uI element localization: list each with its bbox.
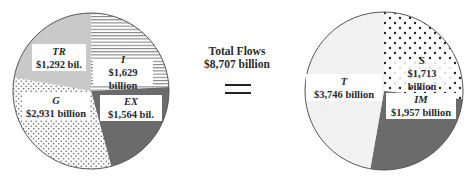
slice-name-s: S	[393, 54, 451, 67]
slice-value-s: $1,713 billion	[393, 67, 451, 93]
slice-value-im: $1,957 billion	[386, 106, 456, 119]
slice-value-tr: $1,292 bil.	[32, 58, 86, 71]
slice-name-tr: TR	[32, 45, 86, 58]
label-tr: TR $1,292 bil.	[32, 44, 86, 71]
total-flows-title: Total Flows	[197, 45, 277, 58]
label-t: T $3,746 billion	[306, 74, 382, 101]
slice-name-ex: EX	[100, 95, 162, 108]
label-s: S $1,713 billion	[393, 62, 451, 84]
label-i: I $1,629 billion	[93, 59, 153, 85]
slice-name-i: I	[93, 53, 153, 66]
slice-value-t: $3,746 billion	[306, 88, 382, 101]
total-flows-label: Total Flows $8,707 billion	[197, 45, 277, 71]
total-flows-value: $8,707 billion	[197, 58, 277, 71]
label-g: G $2,931 billion	[22, 93, 90, 120]
label-ex: EX $1,564 bil.	[100, 95, 162, 121]
label-im: IM $1,957 billion	[386, 93, 456, 119]
slice-name-g: G	[22, 94, 90, 107]
slice-value-ex: $1,564 bil.	[100, 108, 162, 121]
slice-name-im: IM	[386, 93, 456, 106]
equals-sign	[225, 84, 251, 95]
slice-value-i: $1,629 billion	[93, 66, 153, 92]
slice-name-t: T	[306, 75, 382, 88]
left-pie-chart	[0, 0, 182, 180]
slice-value-g: $2,931 billion	[22, 107, 90, 120]
